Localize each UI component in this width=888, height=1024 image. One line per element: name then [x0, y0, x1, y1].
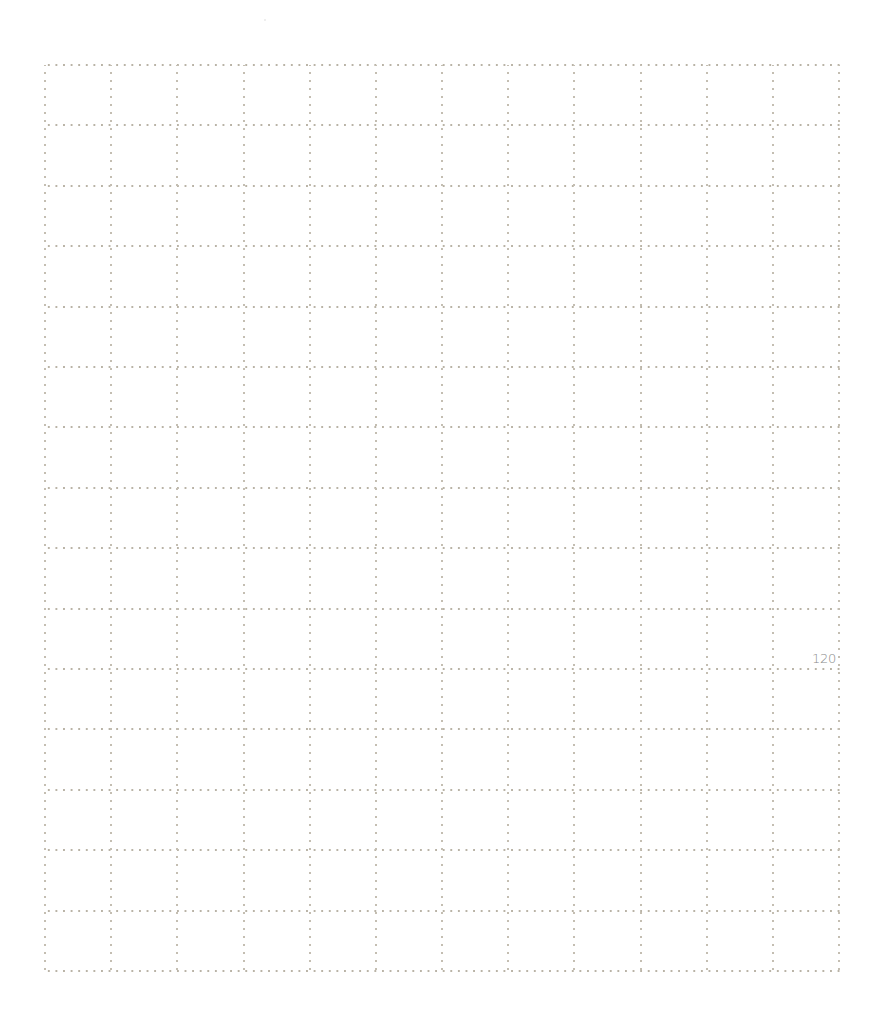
- grid-vertical-line: [176, 65, 178, 972]
- grid-vertical-line: [110, 65, 112, 972]
- grid-vertical-line: [441, 65, 443, 972]
- grid-vertical-line: [309, 65, 311, 972]
- page-showthrough-mark: [264, 0, 266, 50]
- grid-vertical-line: [573, 65, 575, 972]
- grid-vertical-line: [375, 65, 377, 972]
- grid-vertical-line: [243, 65, 245, 972]
- grid-vertical-line: [772, 65, 774, 972]
- grid-vertical-line: [706, 65, 708, 972]
- notebook-page: 120: [0, 0, 888, 1024]
- grid-vertical-line: [44, 65, 46, 972]
- dotted-grid: [45, 65, 839, 971]
- grid-vertical-line: [640, 65, 642, 972]
- grid-vertical-line: [507, 65, 509, 972]
- page-number: 120: [812, 651, 836, 666]
- grid-vertical-line: [838, 65, 840, 972]
